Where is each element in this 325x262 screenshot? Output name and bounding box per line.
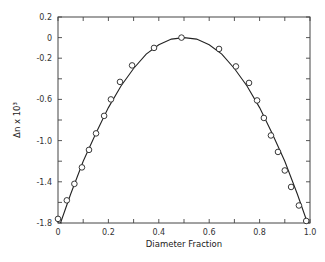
y-tick-label: -1.0 [36,137,52,146]
data-point [72,181,78,187]
y-tick-label: 0.2 [39,13,52,22]
data-point [268,133,274,139]
y-tick-label: -0.6 [36,95,52,104]
data-point [288,184,294,190]
data-point [254,98,260,104]
data-point [233,64,239,70]
data-point [151,45,157,51]
data-point [55,216,61,222]
data-point [64,198,70,204]
y-tick-label: -1.8 [36,219,52,228]
data-point [303,218,309,224]
y-tick-labels: 0.20-0.2-0.6-1.0-1.4-1.8 [36,13,52,228]
fit-curve [61,38,308,223]
data-point [79,165,85,171]
x-tick-label: 0.6 [203,228,216,237]
data-point [216,46,222,52]
data-point [129,63,135,69]
data-point [246,80,252,86]
data-point [275,149,281,155]
data-point [261,115,267,121]
y-tick-label: -1.4 [36,178,52,187]
x-tick-label: 0.8 [253,228,266,237]
x-tick-label: 0.2 [102,228,115,237]
data-point [179,35,185,41]
plot-frame [58,17,310,223]
axis-ticks [58,17,310,223]
x-tick-label: 0 [55,228,60,237]
x-tick-labels: 00.20.40.60.81.0 [55,228,316,237]
data-point [93,131,99,137]
data-point [86,147,92,153]
x-axis-title: Diameter Fraction [146,239,222,249]
data-point [282,168,288,174]
chart: 00.20.40.60.81.0 0.20-0.2-0.6-1.0-1.4-1.… [0,0,325,262]
data-point [108,97,114,103]
x-tick-label: 1.0 [304,228,317,237]
data-point [101,113,107,119]
plot-border [58,17,310,223]
y-tick-label: -0.2 [36,54,52,63]
data-points [55,35,309,224]
y-axis-title: Δn x 10³ [12,102,22,138]
data-point [117,79,123,85]
data-point [296,203,302,209]
x-tick-label: 0.4 [152,228,165,237]
y-tick-label: 0 [47,34,52,43]
